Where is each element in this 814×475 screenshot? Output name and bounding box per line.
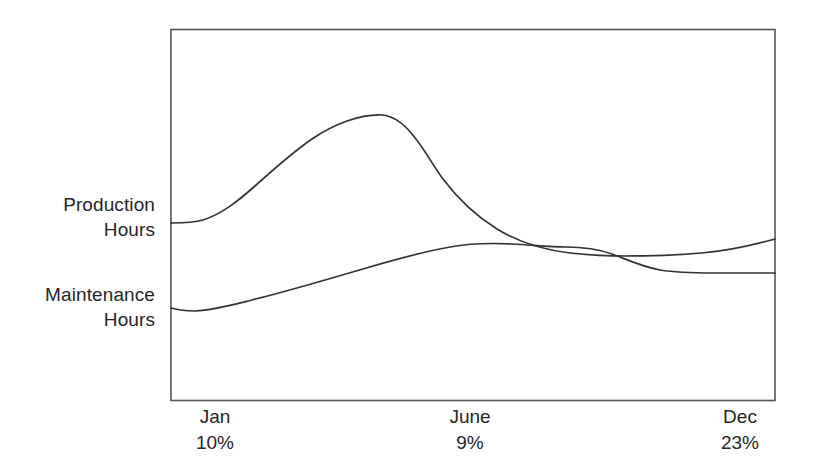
- series-label-maintenance-hours: Maintenance Hours: [45, 282, 155, 332]
- x-axis-tick-label-dec: Dec: [680, 404, 800, 430]
- series-label-maintenance-line2: Hours: [45, 307, 155, 332]
- series-line-production-hours: [171, 115, 775, 256]
- x-axis-tick-jan: Jan 10%: [155, 404, 275, 456]
- series-label-production-line2: Hours: [63, 217, 155, 242]
- x-axis-tick-sublabel-june: 9%: [410, 430, 530, 456]
- plot-frame: [171, 30, 775, 401]
- x-axis-tick-sublabel-dec: 23%: [680, 430, 800, 456]
- series-label-maintenance-line1: Maintenance: [45, 282, 155, 307]
- x-axis-tick-sublabel-jan: 10%: [155, 430, 275, 456]
- line-chart: Production Hours Maintenance Hours Jan 1…: [0, 0, 814, 475]
- series-label-production-hours: Production Hours: [63, 192, 155, 242]
- series-label-production-line1: Production: [63, 192, 155, 217]
- x-axis-tick-label-jan: Jan: [155, 404, 275, 430]
- x-axis-tick-dec: Dec 23%: [680, 404, 800, 456]
- x-axis-tick-label-june: June: [410, 404, 530, 430]
- x-axis-tick-june: June 9%: [410, 404, 530, 456]
